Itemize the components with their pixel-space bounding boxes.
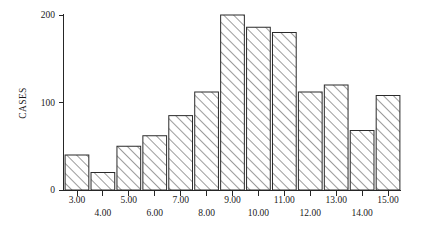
y-tick-label: 100: [41, 98, 56, 108]
histogram-bar: [143, 136, 167, 190]
histogram-bar: [221, 15, 245, 190]
x-tick-label: 13.00: [326, 195, 348, 205]
x-tick-label: 7.00: [172, 195, 189, 205]
histogram-bar: [195, 92, 219, 190]
x-tick-label: 4.00: [95, 208, 112, 218]
x-tick-label: 9.00: [224, 195, 241, 205]
x-tick-label: 6.00: [146, 208, 163, 218]
histogram-bar: [117, 146, 141, 190]
y-axis-ticks: 0100200: [41, 10, 64, 195]
histogram-bar: [376, 96, 400, 191]
x-tick-label: 5.00: [120, 195, 137, 205]
histogram-bar: [350, 131, 374, 191]
histogram-bar: [91, 173, 115, 191]
x-tick-label: 14.00: [351, 208, 373, 218]
histogram-bar: [298, 92, 322, 190]
histogram-bar: [272, 33, 296, 191]
x-tick-label: 15.00: [377, 195, 399, 205]
histogram-chart: 0100200 3.004.005.006.007.008.009.0010.0…: [0, 0, 425, 230]
histogram-bar: [324, 85, 348, 190]
x-tick-label: 12.00: [300, 208, 322, 218]
x-tick-label: 11.00: [274, 195, 295, 205]
y-tick-label: 200: [41, 10, 56, 20]
x-tick-label: 10.00: [248, 208, 270, 218]
y-tick-label: 0: [50, 185, 55, 195]
histogram-bar: [65, 155, 89, 190]
x-tick-label: 8.00: [198, 208, 215, 218]
chart-canvas: 0100200 3.004.005.006.007.008.009.0010.0…: [0, 0, 425, 230]
x-axis-ticks: 3.004.005.006.007.008.009.0010.0011.0012…: [69, 191, 399, 219]
y-axis-title-group: CASES: [18, 87, 28, 119]
x-tick-label: 3.00: [69, 195, 86, 205]
histogram-bar: [247, 27, 271, 190]
histogram-bar: [169, 116, 193, 190]
y-axis-title: CASES: [18, 87, 28, 119]
